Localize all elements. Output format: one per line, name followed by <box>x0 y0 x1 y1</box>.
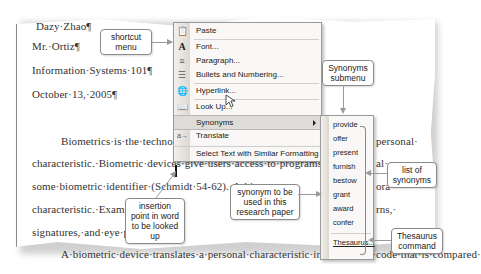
lookup-icon: 📖 <box>177 102 187 112</box>
menu-item-select-similar-formatting[interactable]: Select Text with Similar Formatting <box>174 147 321 161</box>
mouse-pointer-icon <box>225 94 235 108</box>
menu-item-label: Bullets and Numbering... <box>196 68 284 82</box>
doc-line-course: Information·Systems·101¶ <box>32 64 152 76</box>
synonym-furnish[interactable]: furnish <box>333 160 356 174</box>
doc-fragment-1: personal· <box>376 135 418 147</box>
doc-line-instructor: Mr.·Ortiz¶ <box>32 40 80 52</box>
menu-item-synonyms[interactable]: Synonyms <box>174 115 321 130</box>
menu-item-paste[interactable]: 📋 Paste <box>174 24 321 38</box>
arrow-head-icon <box>316 191 322 197</box>
callout-thesaurus-command: Thesaurus command <box>391 228 443 254</box>
shortcut-menu-bottom: Select Text with Similar Formatting <box>173 146 322 162</box>
menu-item-label: Synonyms <box>196 116 233 129</box>
shortcut-menu: 📋 Paste A Font... ≡ Paragraph... ☰ Bulle… <box>173 22 322 148</box>
menu-item-label: Paste <box>196 24 216 38</box>
synonym-present[interactable]: present <box>333 146 358 160</box>
menu-item-font[interactable]: A Font... <box>174 40 321 54</box>
paragraph-icon: ≡ <box>177 56 187 66</box>
arrow-head-icon <box>340 108 346 114</box>
submenu-arrow-icon <box>313 120 316 126</box>
menu-item-paragraph[interactable]: ≡ Paragraph... <box>174 54 321 68</box>
callout-synonyms-submenu: Synonyms submenu <box>322 60 374 86</box>
menu-icon-gutter <box>321 116 329 259</box>
callout-insertion-point: insertion point in word to be looked up <box>125 198 185 244</box>
arrow-head-icon <box>167 39 173 45</box>
arrow-head-icon <box>368 237 374 243</box>
callout-line <box>374 240 391 241</box>
synonym-confer[interactable]: confer <box>333 216 354 230</box>
font-icon: A <box>177 42 187 52</box>
callout-shortcut-menu: shortcut menu <box>100 29 152 55</box>
menu-item-label: Select Text with Similar Formatting <box>196 147 319 161</box>
synonym-bestow[interactable]: bestow <box>333 174 357 188</box>
doc-fragment-4: rns,· <box>376 203 396 215</box>
menu-item-label: Paragraph... <box>196 54 240 68</box>
doc-line-date: October·13,·2005¶ <box>32 88 117 100</box>
hyperlink-icon: 🌐 <box>177 86 187 96</box>
synonym-grant[interactable]: grant <box>333 188 350 202</box>
menu-item-bullets-numbering[interactable]: ☰ Bullets and Numbering... <box>174 68 321 82</box>
arrow-head-icon <box>365 170 371 176</box>
translate-icon: a→ <box>177 131 187 141</box>
menu-item-translate[interactable]: a→ Translate <box>174 129 321 143</box>
menu-item-label: Translate <box>196 129 229 143</box>
synonym-offer[interactable]: offer <box>333 132 348 146</box>
callout-synonym-used: synonym to be used in this research pape… <box>230 184 300 220</box>
paste-icon: 📋 <box>177 26 187 36</box>
synonyms-brace <box>360 126 366 255</box>
callout-list-of-synonyms: list of synonyms <box>387 162 437 188</box>
menu-item-label: Font... <box>196 40 219 54</box>
synonym-provide[interactable]: provide <box>333 118 358 132</box>
bullets-icon: ☰ <box>177 70 187 80</box>
callout-pointer-line <box>150 170 180 200</box>
menu-item-hyperlink[interactable]: 🌐 Hyperlink... <box>174 84 321 98</box>
doc-line-name: Dazy·Zhao¶ <box>36 20 91 32</box>
menu-item-look-up[interactable]: 📖 Look Up... <box>174 100 321 114</box>
callout-line <box>343 85 344 109</box>
synonym-award[interactable]: award <box>333 202 353 216</box>
